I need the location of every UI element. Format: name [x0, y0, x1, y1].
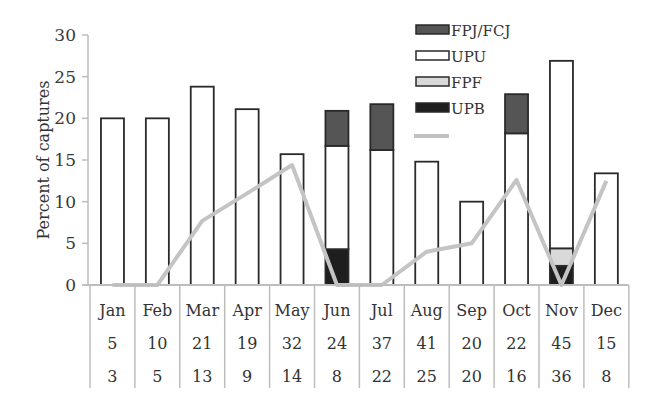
x-category-label: Oct — [502, 301, 531, 320]
x-category-label: May — [275, 301, 310, 320]
table-cell: 37 — [372, 334, 392, 353]
x-category-label: Nov — [545, 301, 578, 320]
legend: FPJ/FCJUPUFPFUPB — [414, 22, 510, 136]
bar-segment-upu — [281, 154, 304, 285]
x-category-label: Jul — [369, 301, 393, 320]
table-cell: 24 — [327, 334, 347, 353]
legend-swatch — [416, 51, 449, 60]
y-axis: 051015202530 — [54, 25, 88, 295]
legend-label: FPF — [451, 74, 482, 92]
y-tick-label: 0 — [65, 275, 76, 295]
x-category-label: Apr — [231, 301, 262, 320]
y-tick-label: 15 — [54, 150, 76, 170]
bar-segment-upu — [595, 173, 618, 285]
table-cell: 20 — [461, 367, 481, 386]
table-cell: 32 — [282, 334, 302, 353]
x-category-label: Feb — [142, 301, 172, 320]
table-cell: 19 — [237, 334, 257, 353]
table-cell: 8 — [601, 367, 611, 386]
table-cell: 5 — [152, 367, 162, 386]
x-category-label: Dec — [591, 301, 622, 320]
y-tick-label: 5 — [65, 233, 76, 253]
bar-segment-upu — [325, 146, 348, 249]
trend-polyline — [112, 165, 606, 285]
table-cell: 36 — [551, 367, 571, 386]
bar-segment-upu — [370, 150, 393, 285]
x-category-label: Mar — [185, 301, 219, 320]
legend-label: UPU — [451, 48, 486, 66]
x-category-label: Jun — [321, 301, 350, 320]
y-tick-label: 10 — [54, 192, 76, 212]
table-cell: 16 — [506, 367, 526, 386]
table-cell: 20 — [461, 334, 481, 353]
bar-segment-fpjfcj — [505, 94, 528, 133]
y-tick-label: 25 — [54, 67, 76, 87]
bar-segment-upu — [415, 162, 438, 285]
table-cell: 22 — [506, 334, 526, 353]
bar-segment-fpjfcj — [325, 111, 348, 146]
legend-swatch — [416, 77, 449, 86]
y-tick-label: 30 — [54, 25, 76, 45]
bar-segment-upu — [101, 118, 124, 285]
table-cell: 41 — [417, 334, 437, 353]
bar-segment-fpjfcj — [370, 104, 393, 150]
table-cell: 14 — [282, 367, 302, 386]
table-cell: 15 — [596, 334, 616, 353]
bar-segment-upu — [191, 87, 214, 285]
legend-swatch — [416, 103, 449, 112]
x-category-label: Jan — [97, 301, 125, 320]
legend-swatch — [416, 25, 449, 34]
x-category-label: Aug — [410, 301, 443, 320]
table-cell: 45 — [551, 334, 571, 353]
table-cell: 21 — [192, 334, 212, 353]
bar-segment-upu — [146, 118, 169, 285]
table-cell: 22 — [372, 367, 392, 386]
y-tick-label: 20 — [54, 108, 76, 128]
bar-segment-upu — [550, 61, 573, 249]
bar-chart: 051015202530 Percent of captures Jan53Fe… — [0, 0, 648, 408]
legend-label: FPJ/FCJ — [451, 22, 510, 40]
table-cell: 5 — [107, 334, 117, 353]
table-cell: 9 — [242, 367, 252, 386]
table-cell: 10 — [147, 334, 167, 353]
legend-label: UPB — [451, 100, 485, 118]
x-category-label: Sep — [456, 301, 487, 320]
table-cell: 13 — [192, 367, 212, 386]
table-cell: 3 — [107, 367, 117, 386]
y-axis-label: Percent of captures — [34, 81, 53, 240]
trend-line — [112, 165, 606, 285]
table-cell: 8 — [332, 367, 342, 386]
table-cell: 25 — [417, 367, 437, 386]
x-axis-table: Jan53Feb105Mar2113Apr199May3214Jun248Jul… — [82, 285, 629, 388]
bar-segment-upu — [505, 133, 528, 285]
